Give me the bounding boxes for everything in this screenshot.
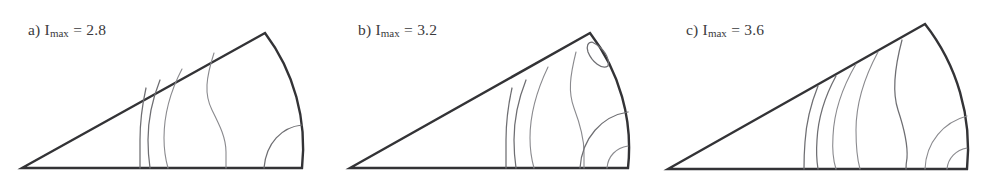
figure-container: a) Imax = 2.8 b) Imax = 3.2 <box>0 0 989 179</box>
wedge-outline-b <box>350 33 629 168</box>
contour-line-b-2 <box>514 80 526 168</box>
corner-arc-b-2 <box>607 146 628 168</box>
wedge-outline-c <box>668 24 968 169</box>
contour-line-c-1 <box>804 86 818 169</box>
corner-arc-a-1 <box>264 125 302 168</box>
panel-a: a) Imax = 2.8 <box>0 0 330 179</box>
corner-arc-c-1 <box>925 116 967 169</box>
corner-arc-b-1 <box>580 112 628 168</box>
panel-b: b) Imax = 3.2 <box>330 0 660 179</box>
panel-c-plot <box>660 0 989 179</box>
contour-line-a-4 <box>207 53 226 168</box>
corner-arc-c-2 <box>947 148 967 169</box>
contour-line-c-5 <box>895 40 908 169</box>
wedge-outline-a <box>22 33 303 168</box>
panel-b-plot <box>330 0 660 179</box>
panel-c: c) Imax = 3.6 <box>660 0 989 179</box>
contour-line-b-1 <box>506 88 512 168</box>
contour-line-c-4 <box>856 52 878 169</box>
contour-line-b-4 <box>570 52 584 168</box>
panel-a-plot <box>0 0 330 179</box>
contour-line-b-3 <box>530 67 548 168</box>
contour-line-c-3 <box>833 64 856 169</box>
